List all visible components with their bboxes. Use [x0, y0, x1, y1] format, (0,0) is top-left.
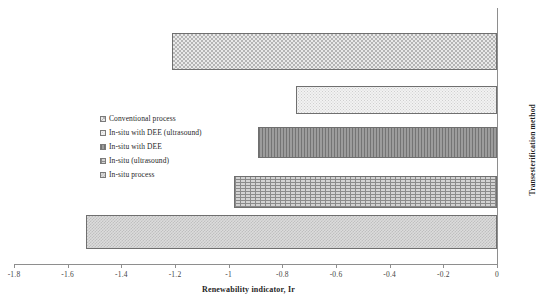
legend: Conventional processIn-situ with DEE (ul… [100, 112, 202, 182]
legend-swatch-icon [100, 130, 106, 136]
x-tick-label: 0 [495, 270, 499, 279]
x-axis-line [14, 264, 498, 265]
x-tick [175, 264, 176, 268]
legend-item[interactable]: In-situ with DEE [100, 140, 202, 153]
legend-item-label: In-situ (ultrasound) [109, 156, 169, 165]
bar-in-situ-ultrasound [234, 176, 497, 208]
legend-item-label: In-situ with DEE (ultrasound) [109, 128, 202, 137]
legend-swatch-icon [100, 144, 106, 150]
x-tick [336, 264, 337, 268]
bar-in-situ-process [86, 215, 497, 249]
x-tick-label: -0.2 [437, 270, 450, 279]
x-axis-title: Renewability indicator, Ir [0, 285, 497, 294]
legend-item[interactable]: In-situ with DEE (ultrasound) [100, 126, 202, 139]
legend-swatch-icon [100, 116, 106, 122]
x-tick [229, 264, 230, 268]
x-tick [497, 264, 498, 268]
legend-item-label: Conventional process [109, 114, 176, 123]
x-tick-label: -1 [225, 270, 232, 279]
x-tick-label: -1.4 [115, 270, 128, 279]
x-tick [14, 264, 15, 268]
bar-in-situ-with-dee-ultrasound [296, 86, 497, 114]
legend-item-label: In-situ with DEE [109, 142, 162, 151]
x-tick [282, 264, 283, 268]
x-tick [390, 264, 391, 268]
bar-in-situ-with-dee [258, 127, 497, 158]
legend-swatch-icon [100, 172, 106, 178]
y-axis-line [497, 8, 498, 265]
legend-item-label: In-situ process [109, 170, 154, 179]
x-tick-label: -1.6 [61, 270, 74, 279]
legend-swatch-icon [100, 158, 106, 164]
x-tick-label: -0.8 [276, 270, 289, 279]
x-tick [443, 264, 444, 268]
x-tick [68, 264, 69, 268]
y-axis-title: Transesterification method [528, 104, 537, 196]
x-tick-label: -0.6 [330, 270, 343, 279]
x-tick-label: -1.2 [169, 270, 182, 279]
x-tick [121, 264, 122, 268]
plot-area [14, 8, 497, 264]
legend-item[interactable]: In-situ (ultrasound) [100, 154, 202, 167]
x-tick-label: -1.8 [8, 270, 21, 279]
legend-item[interactable]: In-situ process [100, 168, 202, 181]
bar-conventional-process [172, 33, 497, 70]
x-tick-label: -0.4 [383, 270, 396, 279]
legend-item[interactable]: Conventional process [100, 112, 202, 125]
